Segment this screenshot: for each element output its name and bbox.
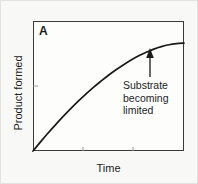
figure-panel-a: A Product formed Time Substrate becoming… xyxy=(0,0,198,184)
annotation-line-2: becoming xyxy=(123,92,169,105)
x-axis-label: Time xyxy=(33,161,184,175)
y-axis-label: Product formed xyxy=(11,28,25,158)
annotation-line-1: Substrate xyxy=(123,79,169,92)
panel-label-a: A xyxy=(39,25,48,37)
up-arrow-icon xyxy=(146,48,154,77)
annotation-line-3: limited xyxy=(123,104,169,117)
annotation-text: Substrate becoming limited xyxy=(123,79,169,117)
